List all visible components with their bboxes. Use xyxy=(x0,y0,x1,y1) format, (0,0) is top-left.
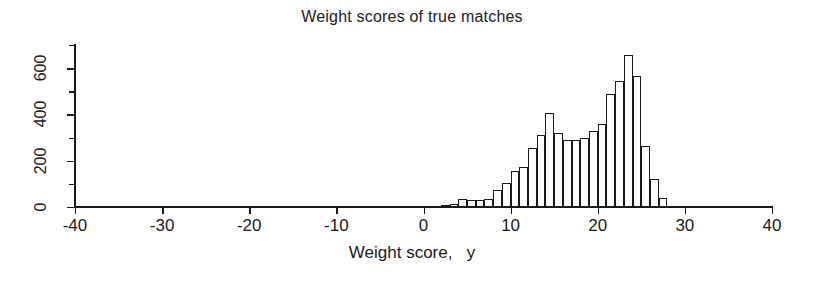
x-axis-tick-label: 20 xyxy=(568,216,628,236)
y-axis-tick xyxy=(67,207,75,208)
x-axis-tick-label: 10 xyxy=(481,216,541,236)
x-axis-title: Weight score, y xyxy=(0,243,824,263)
plot-area xyxy=(75,45,772,207)
x-axis-tick-label: -40 xyxy=(45,216,105,236)
histogram-bar xyxy=(589,131,598,207)
histogram-figure: Weight scores of true matches -40-30-20-… xyxy=(0,0,824,302)
histogram-bar xyxy=(528,148,537,207)
x-axis-tick xyxy=(336,207,337,214)
histogram-bar xyxy=(572,140,581,207)
histogram-bar xyxy=(641,146,650,207)
y-axis-tick-label: 200 xyxy=(32,138,50,184)
histogram-bar xyxy=(545,113,554,207)
y-axis-minor-tick xyxy=(69,138,75,139)
histogram-bar xyxy=(650,179,659,207)
page-title: Weight scores of true matches xyxy=(0,8,824,26)
histogram-bar xyxy=(502,183,511,207)
histogram-bar xyxy=(511,171,520,207)
y-axis-tick xyxy=(67,68,75,69)
histogram-bar xyxy=(519,167,528,208)
y-axis-minor-tick xyxy=(69,91,75,92)
y-axis-tick-label: 0 xyxy=(32,184,50,230)
histogram-bar xyxy=(580,138,589,207)
y-axis-tick xyxy=(67,114,75,115)
histogram-bar xyxy=(633,76,642,207)
y-axis-minor-tick xyxy=(69,45,75,46)
y-axis-tick-label: 400 xyxy=(32,91,50,137)
histogram-bar xyxy=(624,55,633,207)
x-axis-tick xyxy=(598,207,599,214)
x-axis-tick-label: -30 xyxy=(132,216,192,236)
x-axis-tick-label: -20 xyxy=(219,216,279,236)
x-axis-tick-label: 0 xyxy=(394,216,454,236)
x-axis-tick-label: 40 xyxy=(742,216,802,236)
histogram-bars xyxy=(75,45,772,207)
y-axis-tick-label: 600 xyxy=(32,45,50,91)
histogram-bar xyxy=(554,133,563,207)
histogram-bar xyxy=(493,190,502,207)
x-axis-tick xyxy=(424,207,425,214)
x-axis-tick xyxy=(249,207,250,214)
histogram-bar xyxy=(598,124,607,207)
x-axis-tick xyxy=(685,207,686,214)
x-axis-tick-label: 30 xyxy=(655,216,715,236)
histogram-bar xyxy=(563,140,572,207)
histogram-bar xyxy=(615,81,624,207)
x-axis-tick-label: -10 xyxy=(306,216,366,236)
y-axis-minor-tick xyxy=(69,184,75,185)
y-axis-tick xyxy=(67,161,75,162)
x-axis-tick xyxy=(75,207,76,214)
x-axis-tick xyxy=(511,207,512,214)
x-axis-tick xyxy=(162,207,163,214)
histogram-bar xyxy=(606,94,615,207)
x-axis-tick xyxy=(772,207,773,214)
histogram-bar xyxy=(537,135,546,207)
